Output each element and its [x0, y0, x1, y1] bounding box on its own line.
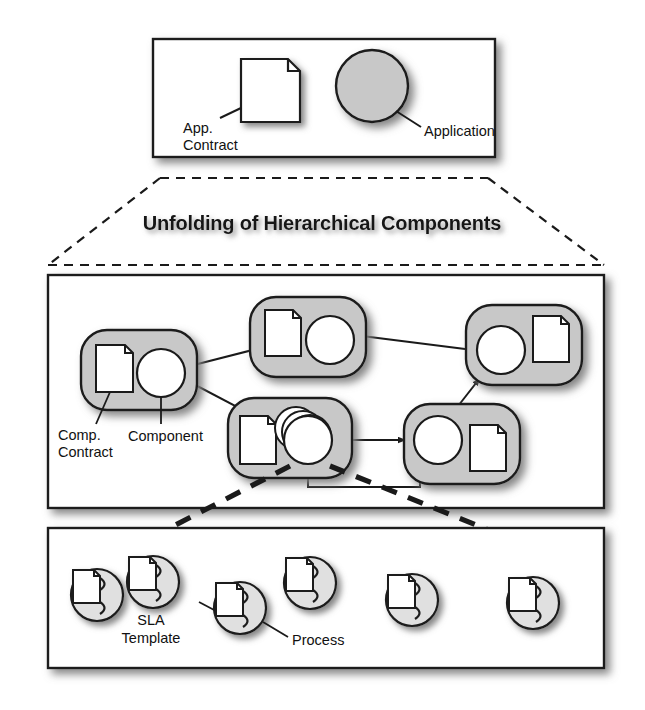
hierarchical-components-diagram: App. Contract Application Unfolding of H… [0, 0, 645, 710]
component-node-2-circle [306, 316, 354, 364]
process-node-1 [71, 569, 123, 621]
component-node-4-document-icon [240, 416, 276, 464]
process-node-3 [214, 582, 266, 634]
component-layer-box: Comp. Contract Component [48, 275, 604, 508]
component-node-5 [404, 404, 520, 484]
process-node-2-document-icon [129, 557, 156, 590]
component-node-1-circle [137, 349, 185, 397]
sla-template-label-line2: Template [122, 630, 181, 646]
app-contract-label-line2: Contract [183, 137, 238, 153]
component-node-5-circle [414, 416, 462, 464]
comp-contract-label-line2: Contract [58, 444, 113, 460]
component-node-2-document-icon [265, 310, 301, 356]
process-node-5-document-icon [388, 575, 415, 608]
expansion-line-right [488, 178, 604, 265]
component-node-3-circle [477, 326, 525, 374]
component-node-2 [250, 297, 366, 377]
process-node-2 [127, 556, 179, 608]
unfolding-title: Unfolding of Hierarchical Components [143, 212, 501, 234]
application-layer-box: App. Contract Application [153, 39, 495, 157]
component-node-3-document-icon [533, 316, 569, 362]
process-node-4 [284, 557, 336, 609]
application-label: Application [424, 123, 495, 139]
process-node-6-document-icon [509, 578, 536, 611]
component-node-3 [466, 305, 582, 385]
process-label: Process [292, 632, 344, 648]
process-node-3-document-icon [216, 583, 243, 616]
sla-template-label-line1: SLA [137, 612, 165, 628]
process-node-5 [386, 574, 438, 626]
comp-contract-label-line1: Comp. [58, 427, 101, 443]
diagram-canvas: App. Contract Application Unfolding of H… [0, 0, 645, 710]
process-layer-box: SLA Template Process [48, 528, 604, 668]
app-contract-label-line1: App. [183, 120, 213, 136]
process-node-4-document-icon [286, 558, 313, 591]
comp-contract-document-icon [96, 345, 133, 392]
component-node-1 [81, 330, 197, 410]
process-node-1-document-icon [73, 570, 100, 603]
component-node-5-document-icon [470, 425, 506, 471]
app-contract-document-icon [241, 59, 300, 122]
component-label: Component [128, 428, 203, 444]
process-node-6 [507, 577, 559, 629]
